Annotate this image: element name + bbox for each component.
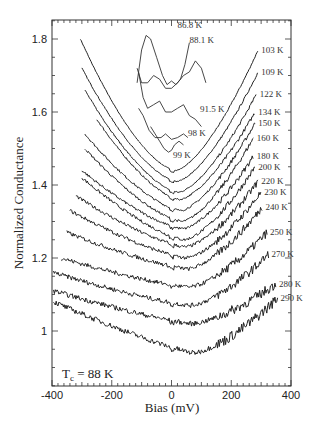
curve-label: 109 K [261,67,284,77]
inset-curve-label: 91.5 K [200,104,225,114]
curve-label: 103 K [261,45,284,55]
curve-label: 220 K [261,176,284,186]
inset-curve-881k [137,61,206,88]
y-tick-label: 1.2 [32,252,47,264]
curve-label: 150 K [258,118,281,128]
x-tick-label: 400 [282,389,300,401]
curve-label: 240 K [266,202,289,212]
curve-labels: 103 K109 K122 K134 K150 K160 K180 K200 K… [257,45,304,303]
curve-label: 250 K [270,227,293,237]
y-tick-label: 1.4 [32,179,47,191]
curves [54,39,278,354]
curve-109k [82,68,258,183]
x-tick-label: -200 [101,389,123,401]
curve-label: 290 K [281,293,304,303]
curve-label: 230 K [264,187,287,197]
x-tick-label: 200 [222,389,240,401]
curve-label: 180 K [257,151,280,161]
x-axis-title: Bias (mV) [145,400,200,415]
inset-curve-label: 86.8 K [177,20,202,30]
x-tick-label: -400 [41,389,63,401]
curve-label: 200 K [258,162,281,172]
curve-220k [76,180,258,248]
curve-label: 134 K [258,107,281,117]
curve-103k [80,39,257,172]
inset-curve-label: 99 K [173,150,191,160]
curve-280k [54,283,276,326]
y-axis-title: Normalized Conductance [11,137,26,270]
inset-curve-98k [139,108,188,139]
curve-label: 160 K [257,133,280,143]
conductance-chart: -400-2000200400 11.21.41.61.8 86.8 K88.1… [0,0,311,429]
curve-label: 270 K [272,249,295,259]
curve-230k [70,192,261,259]
inset-curve-99k [151,127,184,153]
curve-label: 122 K [260,89,283,99]
curve-label: 280 K [279,279,302,289]
curve-240k [67,207,262,270]
inset-curve-915k [139,72,202,127]
y-tick-label: 1.6 [32,106,47,118]
inset-curve-label: 98 K [188,128,206,138]
inset-curves: 86.8 K88.1 K91.5 K98 K99 K [137,20,225,160]
y-tick-label: 1.8 [32,33,47,45]
y-tick-label: 1 [41,325,47,337]
tc-annotation: Tc = 88 K [62,366,114,383]
inset-curve-label: 88.1 K [189,35,214,45]
